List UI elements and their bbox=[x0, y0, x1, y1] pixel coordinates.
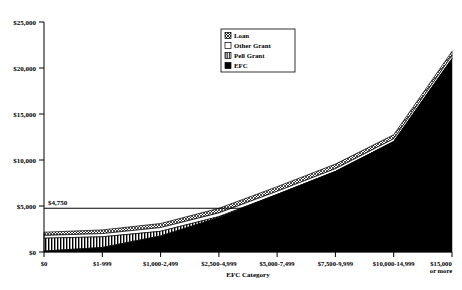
x-tick-label-3: $2,500-4,999 bbox=[201, 260, 237, 267]
stacked-area-chart: $4,750 $25,000 $20,000 $15,000 $10,000 $… bbox=[0, 0, 462, 290]
legend-background bbox=[221, 29, 295, 72]
y-tick-label-10000: $10,000 bbox=[13, 157, 36, 165]
y-axis-ticks bbox=[39, 22, 44, 252]
x-tick-label-1: $1-999 bbox=[93, 260, 112, 267]
x-tick-label-6: $10,000-14,999 bbox=[373, 260, 415, 267]
legend-label-efc: EFC bbox=[234, 62, 248, 69]
x-axis-ticks bbox=[44, 252, 452, 257]
x-tick-label-7b: or more bbox=[430, 267, 452, 274]
x-axis-title: EFC Category bbox=[226, 271, 270, 279]
chart-container: $4,750 $25,000 $20,000 $15,000 $10,000 $… bbox=[0, 0, 462, 290]
chart-legend: Loan Other Grant Pell Grant EFC bbox=[221, 29, 295, 72]
reference-line-label: $4,750 bbox=[48, 199, 68, 207]
y-tick-label-25000: $25,000 bbox=[13, 19, 36, 27]
solid-black-swatch bbox=[225, 63, 231, 69]
x-tick-label-4: $5,000-7,499 bbox=[260, 260, 296, 267]
x-tick-label-0: $0 bbox=[41, 260, 48, 267]
y-tick-label-15000: $15,000 bbox=[13, 111, 36, 119]
legend-label-other-grant: Other Grant bbox=[234, 42, 271, 49]
y-tick-label-5000: $5,000 bbox=[17, 203, 37, 211]
white-swatch bbox=[225, 43, 231, 49]
x-tick-label-7a: $15,000 bbox=[430, 260, 452, 267]
y-axis-tick-labels: $25,000 $20,000 $15,000 $10,000 $5,000 $… bbox=[13, 19, 36, 257]
x-tick-label-2: $1,000-2,499 bbox=[143, 260, 179, 267]
cross-hatch-swatch bbox=[225, 33, 231, 39]
vertical-lines-swatch bbox=[225, 53, 231, 59]
y-tick-label-20000: $20,000 bbox=[13, 65, 36, 73]
legend-label-pell-grant: Pell Grant bbox=[234, 52, 265, 59]
legend-label-loan: Loan bbox=[234, 32, 249, 39]
y-tick-label-0: $0 bbox=[29, 249, 37, 257]
x-tick-label-5: $7,500-9,999 bbox=[318, 260, 354, 267]
